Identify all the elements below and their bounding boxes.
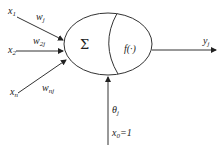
weight-label-1: wj bbox=[36, 11, 45, 24]
input-label-2: x2 bbox=[7, 44, 16, 57]
neuron-divider bbox=[109, 14, 118, 75]
sum-symbol: Σ bbox=[80, 37, 89, 52]
weight-label-2: w2j bbox=[33, 35, 45, 48]
neuron-body bbox=[64, 13, 152, 75]
bias-input-label: x0=1 bbox=[111, 127, 132, 140]
bias-label: θj bbox=[112, 104, 119, 117]
activation-label: f(·) bbox=[124, 43, 137, 55]
input-label-1: x1 bbox=[7, 5, 16, 18]
input-label-n: xn bbox=[9, 86, 18, 99]
weight-label-n: wnj bbox=[42, 82, 54, 95]
neuron-diagram: x1 wj w2j x2 xn wnj Σ f(·) yj θj x0=1 bbox=[0, 0, 221, 151]
output-label: yj bbox=[202, 35, 209, 48]
